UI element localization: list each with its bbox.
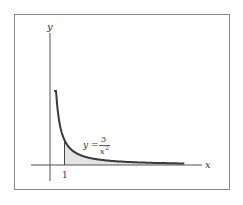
y-axis-label: y — [46, 21, 53, 32]
x-axis-label: x — [205, 159, 211, 170]
curve — [54, 91, 184, 164]
equation-numerator: 3 — [101, 135, 106, 144]
equation-exponent: 2 — [105, 144, 109, 151]
figure: y x 1 y = 3 x 2 — [0, 0, 243, 205]
tick-label-1: 1 — [62, 170, 68, 180]
equation-lhs: y = — [82, 140, 99, 150]
